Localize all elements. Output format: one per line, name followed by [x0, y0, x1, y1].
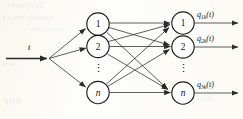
output-node-1: 1	[172, 12, 194, 34]
output-signal-arg: (t)	[206, 10, 214, 19]
node-label: 2	[96, 42, 101, 52]
edge-input-h1	[49, 29, 86, 59]
edge-h2-o1	[109, 25, 171, 42]
node-label: n	[96, 88, 101, 98]
output-arrows	[195, 23, 239, 93]
output-node-2: 2	[172, 36, 194, 58]
output-layer-ellipsis: ⋮	[178, 62, 189, 74]
node-label: n	[181, 88, 186, 98]
output-signal-label-1: q1k(t)	[197, 10, 214, 20]
network-diagram: t 1 2 ⋮	[0, 0, 243, 119]
output-signal-arg: (t)	[206, 80, 214, 89]
node-label: 1	[181, 18, 186, 28]
node-label: 2	[181, 42, 186, 52]
hidden-node-n: n	[87, 81, 109, 103]
hidden-to-output-edges	[107, 23, 171, 93]
node-label: 1	[96, 19, 101, 29]
output-signal-label-2: q2k(t)	[197, 34, 214, 44]
figure-container: Документ пример текста схема сети Amp 20…	[0, 0, 243, 119]
hidden-node-1: 1	[87, 13, 109, 35]
output-signal-arg: (t)	[206, 34, 214, 43]
hidden-layer-ellipsis: ⋮	[93, 62, 104, 74]
input-fanout-edges	[49, 29, 86, 88]
edge-input-h2	[49, 48, 86, 59]
output-signal-label-3: q3k(t)	[197, 80, 214, 90]
edge-input-hn	[49, 59, 86, 88]
input-label: t	[28, 42, 31, 52]
output-node-n: n	[172, 82, 194, 104]
edge-h1-on	[107, 33, 168, 90]
hidden-node-2: 2	[87, 35, 109, 57]
edge-h2-on	[108, 54, 169, 90]
